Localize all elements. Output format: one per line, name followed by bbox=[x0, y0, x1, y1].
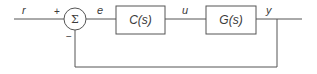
signal-y-label: y bbox=[265, 4, 273, 16]
controller-label: C(s) bbox=[129, 13, 152, 27]
plant-block: G(s) bbox=[206, 6, 256, 34]
signal-u-label: u bbox=[182, 4, 188, 16]
signal-e-label: e bbox=[97, 4, 103, 16]
controller-block: C(s) bbox=[116, 6, 165, 34]
block-diagram: r + Σ − e C(s) u G(s) y bbox=[0, 0, 317, 74]
plant-label: G(s) bbox=[219, 13, 242, 27]
summing-junction: Σ bbox=[64, 8, 86, 30]
plus-sign: + bbox=[54, 6, 60, 17]
feedback-path bbox=[75, 19, 277, 67]
sigma-symbol: Σ bbox=[71, 13, 79, 26]
signal-r-label: r bbox=[22, 4, 27, 16]
minus-sign: − bbox=[66, 31, 72, 42]
